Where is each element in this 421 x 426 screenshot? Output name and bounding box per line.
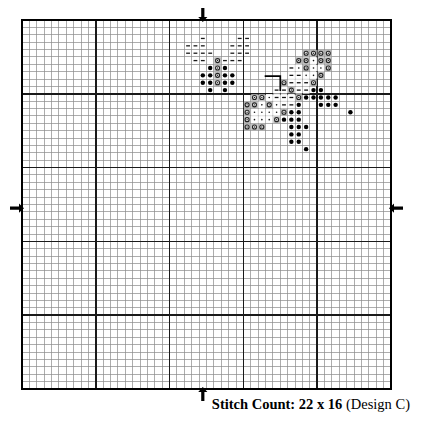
stitch-cell-open-circle [318, 57, 325, 64]
stitch-cell-small-dot [251, 116, 258, 123]
stitch-cell-open-circle [303, 57, 310, 64]
stitch-cell-filled-dot [223, 66, 227, 70]
stitch-cell-filled-dot [326, 103, 330, 107]
circle-center-dot-icon [298, 60, 299, 61]
circle-center-dot-icon [254, 97, 255, 98]
stitch-cell-dash-shaded [273, 94, 280, 101]
stitch-cell-small-dot [310, 65, 317, 72]
small-dot-icon [313, 60, 315, 62]
stitch-cell-open-circle [310, 79, 317, 86]
filled-dot-icon [304, 95, 308, 99]
filled-dot-icon [223, 66, 227, 70]
stitch-cell-filled-dot [297, 117, 301, 121]
stitch-cell-open-circle [214, 72, 221, 79]
circle-center-dot-icon [246, 104, 247, 105]
filled-dot-icon [333, 103, 337, 107]
circle-center-dot-icon [283, 112, 284, 113]
stitch-cell-filled-dot [304, 147, 308, 151]
stitch-cell-filled-dot [208, 66, 212, 70]
stitch-cell-filled-dot [289, 132, 293, 136]
cross-stitch-chart: Stitch Count: 22 x 16 (Design C) [0, 0, 421, 426]
stitch-cell-filled-dot [319, 95, 323, 99]
filled-dot-icon [201, 73, 205, 77]
small-dot-icon [276, 104, 278, 106]
stitch-cell-filled-dot [297, 103, 301, 107]
stitch-cell-dash-shaded [288, 102, 295, 109]
stitch-cell-dash-shaded [273, 87, 280, 94]
circle-center-dot-icon [313, 52, 314, 53]
stitch-cell-open-circle [295, 94, 302, 101]
circle-center-dot-icon [217, 60, 218, 61]
stitch-cell-open-circle [259, 124, 266, 131]
stitch-cell-filled-dot [208, 73, 212, 77]
stitch-count-caption: Stitch Count: 22 x 16 (Design C) [0, 396, 410, 413]
circle-center-dot-icon [328, 52, 329, 53]
stitch-cell-filled-dot [223, 81, 227, 85]
stitch-cell-open-circle [244, 124, 251, 131]
stitch-cell-dash-shaded [303, 87, 310, 94]
stitch-cell-filled-dot [201, 81, 205, 85]
stitch-cell-small-dot [266, 94, 273, 101]
small-dot-icon [268, 111, 270, 113]
stitch-cell-open-circle [251, 124, 258, 131]
small-dot-icon [268, 119, 270, 121]
circle-center-dot-icon [254, 126, 255, 127]
caption-regular-text: (Design C) [346, 396, 410, 412]
circle-center-dot-icon [268, 104, 269, 105]
stitch-cell-filled-dot [289, 110, 293, 114]
stitch-cell-filled-dot [230, 81, 234, 85]
small-dot-icon [254, 111, 256, 113]
stitch-cell-filled-dot [297, 125, 301, 129]
filled-dot-icon [326, 95, 330, 99]
filled-dot-icon [333, 95, 337, 99]
small-dot-icon [320, 67, 322, 69]
stitch-cell-dash-shaded [281, 87, 288, 94]
stitch-cell-small-dot [303, 72, 310, 79]
stitch-cell-filled-dot [297, 140, 301, 144]
filled-dot-icon [319, 103, 323, 107]
circle-center-dot-icon [320, 75, 321, 76]
filled-dot-icon [208, 66, 212, 70]
stitch-cell-filled-dot [311, 88, 315, 92]
stitch-cell-open-circle [303, 65, 310, 72]
stitch-cell-filled-dot [289, 117, 293, 121]
stitch-cell-filled-dot [230, 73, 234, 77]
filled-dot-icon [348, 110, 352, 114]
circle-center-dot-icon [328, 60, 329, 61]
filled-dot-icon [289, 125, 293, 129]
stitch-cell-filled-dot [348, 110, 352, 114]
filled-dot-icon [208, 81, 212, 85]
pattern-grid [0, 0, 421, 426]
stitch-cell-open-circle [214, 79, 221, 86]
small-dot-icon [261, 104, 263, 106]
filled-dot-icon [297, 125, 301, 129]
stitch-cell-filled-dot [223, 73, 227, 77]
filled-dot-icon [208, 73, 212, 77]
circle-center-dot-icon [217, 82, 218, 83]
stitch-cell-open-circle [244, 109, 251, 116]
circle-center-dot-icon [254, 104, 255, 105]
stitch-cell-small-dot [310, 72, 317, 79]
stitch-cell-filled-dot [333, 103, 337, 107]
stitch-cell-open-circle [214, 65, 221, 72]
circle-center-dot-icon [320, 52, 321, 53]
filled-dot-icon [223, 73, 227, 77]
small-dot-icon [298, 67, 300, 69]
filled-dot-icon [319, 88, 323, 92]
stitch-cell-filled-dot [208, 88, 212, 92]
stitch-cell-open-circle [318, 72, 325, 79]
circle-center-dot-icon [217, 67, 218, 68]
small-dot-icon [276, 111, 278, 113]
stitch-cell-open-circle [273, 116, 280, 123]
stitch-cell-small-dot [259, 109, 266, 116]
filled-dot-icon [230, 81, 234, 85]
circle-center-dot-icon [305, 60, 306, 61]
filled-dot-icon [223, 81, 227, 85]
stitch-cell-filled-dot [297, 132, 301, 136]
stitch-cell-small-dot [266, 109, 273, 116]
filled-dot-icon [297, 110, 301, 114]
stitch-cell-filled-dot [326, 95, 330, 99]
circle-center-dot-icon [276, 119, 277, 120]
circle-center-dot-icon [217, 75, 218, 76]
filled-dot-icon [304, 147, 308, 151]
